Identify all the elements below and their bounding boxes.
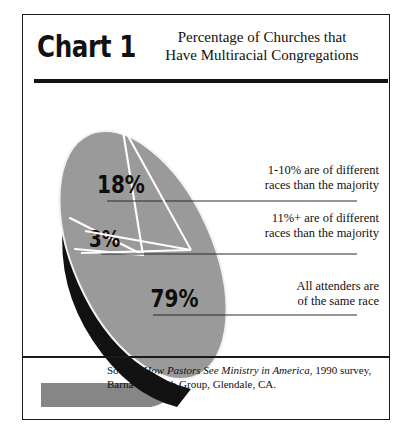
source-prefix: Source:	[107, 364, 143, 376]
source-publication-title: How Pastors See Ministry in America	[143, 364, 309, 376]
callout-1-line-1: 1-10% are of different	[211, 163, 379, 178]
callout-3-line-1: All attenders are	[211, 279, 379, 294]
pie-value-label-3: 3%	[89, 226, 120, 253]
callout-2-line-2: races than the majority	[211, 226, 379, 241]
callout-label-1: 1-10% are of different races than the ma…	[211, 163, 379, 193]
pie-chart-plot-area: 18% 3% 79% 1-10% are of different races …	[23, 83, 389, 353]
source-note: Source: How Pastors See Ministry in Amer…	[107, 363, 379, 391]
callout-label-2: 11%+ are of different races than the maj…	[211, 211, 379, 241]
callout-label-3: All attenders are of the same race	[211, 279, 379, 309]
pie-value-label-18: 18%	[97, 170, 145, 199]
source-divider-rule	[23, 356, 389, 358]
chart-frame: Chart 1 Percentage of Churches that Have…	[22, 14, 390, 420]
callout-1-line-2: races than the majority	[211, 178, 379, 193]
pie-value-label-79: 79%	[151, 284, 199, 313]
callout-2-line-1: 11%+ are of different	[211, 211, 379, 226]
callout-3-line-2: of the same race	[211, 294, 379, 309]
